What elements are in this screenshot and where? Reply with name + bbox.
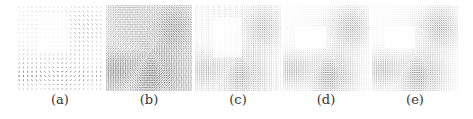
panel-a-vector-field (17, 5, 103, 91)
caption-a: (a) (17, 92, 103, 108)
panel-c-vector-field (195, 5, 281, 91)
panel-d-vector-field (283, 5, 369, 91)
caption-c: (c) (195, 92, 281, 108)
caption-e: (e) (372, 92, 458, 108)
panel-b-vector-field (106, 5, 192, 91)
caption-b: (b) (106, 92, 192, 108)
caption-d: (d) (283, 92, 369, 108)
panel-e-vector-field (372, 5, 458, 91)
